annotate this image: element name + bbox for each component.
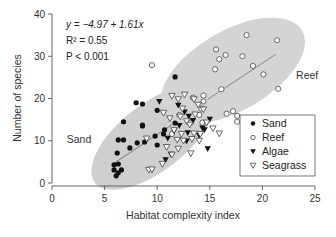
filled-triangle-marker — [204, 146, 210, 152]
y-tick-label: 40 — [34, 9, 46, 20]
open-circle-marker — [275, 38, 280, 43]
y-tick-label: 20 — [34, 93, 46, 104]
x-axis-ticks: 0510152025 — [49, 186, 321, 204]
x-tick-label: 0 — [49, 193, 55, 204]
equation-text: y = −4.97 + 1.61x — [65, 19, 145, 30]
group-label-sand: Sand — [67, 133, 92, 145]
filled-circle-marker — [127, 145, 132, 150]
filled-circle-marker — [121, 137, 126, 142]
legend-label: Algae — [262, 145, 289, 157]
y-tick-label: 10 — [34, 135, 46, 146]
filled-circle-marker — [140, 123, 145, 128]
open-triangle-marker — [210, 126, 216, 132]
filled-circle-marker — [162, 127, 167, 132]
open-circle-marker — [261, 72, 266, 77]
legend-label: Reef — [262, 131, 284, 143]
open-circle-marker — [224, 111, 229, 116]
x-tick-label: 10 — [152, 193, 164, 204]
open-circle-marker — [201, 99, 206, 104]
filled-circle-marker — [116, 137, 121, 142]
y-tick-label: 0 — [39, 178, 45, 189]
legend-label: Seagrass — [262, 159, 306, 171]
open-circle-marker — [212, 67, 217, 72]
filled-circle-marker — [135, 140, 140, 145]
scatter-chart: 010203040 0510152025 Habitat complexity … — [0, 0, 336, 237]
open-circle-marker — [250, 63, 255, 68]
p-value-text: P < 0.001 — [66, 51, 109, 62]
open-circle-marker — [217, 57, 222, 62]
y-tick-label: 30 — [34, 51, 46, 62]
x-tick-label: 15 — [204, 193, 216, 204]
filled-circle-marker — [155, 142, 160, 147]
legend: SandReefAlgaeSeagrass — [240, 115, 315, 176]
x-axis-title: Habitat complexity index — [126, 209, 241, 221]
open-circle-marker — [223, 52, 228, 57]
open-circle-marker — [240, 54, 245, 59]
filled-circle-marker — [115, 150, 120, 155]
x-tick-label: 20 — [257, 193, 269, 204]
filled-circle-marker — [116, 161, 121, 166]
open-circle-marker — [219, 87, 224, 92]
open-circle-marker — [230, 109, 235, 114]
x-tick-label: 5 — [102, 193, 108, 204]
y-axis-title: Number of species — [11, 54, 23, 142]
open-circle-marker — [214, 47, 219, 52]
legend-label: Sand — [262, 117, 287, 129]
filled-circle-marker — [152, 134, 157, 139]
filled-circle-marker — [140, 101, 145, 106]
r-squared-text: R² = 0.55 — [66, 35, 108, 46]
filled-circle-marker — [121, 119, 126, 124]
open-circle-marker — [201, 93, 206, 98]
open-circle-marker — [149, 63, 154, 68]
filled-circle-marker — [134, 100, 139, 105]
y-axis-ticks: 010203040 — [34, 9, 52, 189]
filled-circle-marker — [251, 121, 255, 125]
filled-circle-marker — [111, 167, 116, 172]
open-triangle-marker — [216, 131, 222, 137]
x-tick-label: 25 — [309, 193, 321, 204]
filled-circle-marker — [155, 108, 160, 113]
open-circle-marker — [235, 113, 240, 118]
regression-annotation: y = −4.97 + 1.61x R² = 0.55 P < 0.001 — [65, 19, 145, 62]
open-circle-marker — [251, 135, 255, 139]
group-label-reef: Reef — [296, 69, 318, 81]
open-triangle-marker — [188, 151, 194, 157]
filled-circle-marker — [114, 173, 119, 178]
open-circle-marker — [276, 86, 281, 91]
open-circle-marker — [244, 33, 249, 38]
open-circle-marker — [235, 119, 240, 124]
filled-circle-marker — [119, 167, 124, 172]
filled-circle-marker — [172, 74, 177, 79]
